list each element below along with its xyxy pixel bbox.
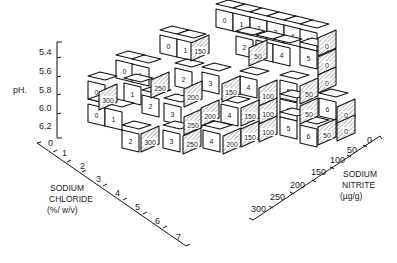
- nacl-value-label: 3: [170, 138, 174, 145]
- nacl-tick: 2: [80, 161, 85, 171]
- nacl-value-label: 0: [167, 43, 171, 50]
- nitrite-units: (µg/g): [340, 191, 363, 201]
- nitrite-title: NITRITE: [342, 180, 375, 190]
- nitrite-value-label: 0: [325, 43, 329, 50]
- sodium-nitrite-axis: 0 50 100 150 200 250 300 SODIUM NITRITE …: [249, 135, 382, 220]
- nacl-value-label: 5: [287, 125, 291, 132]
- ph-axis: pH. 5.4 5.6 5.8 6.0 6.2: [13, 42, 62, 138]
- nacl-units: (%/ w/v): [47, 205, 78, 215]
- nacl-value-label: 0: [223, 17, 227, 24]
- nacl-tick: 7: [176, 232, 181, 242]
- nacl-tick: 0: [48, 138, 53, 148]
- nacl-value-label: 3: [171, 111, 175, 118]
- nacl-value-label: 1: [240, 21, 244, 28]
- nitrite-value-label: 0: [344, 128, 348, 135]
- nacl-tick: 6: [155, 216, 160, 226]
- nacl-tick: 4: [115, 188, 120, 198]
- nacl-value-label: 0: [95, 112, 99, 119]
- nacl-value-label: 4: [228, 112, 232, 119]
- nacl-value-label: 1: [112, 116, 116, 123]
- ph-tick: 5.8: [39, 85, 52, 95]
- nacl-value-label: 1: [184, 47, 188, 54]
- blocks: 0123450123450123450123456012345615050000…: [88, 0, 355, 154]
- nitrite-value-label: 150: [244, 113, 256, 120]
- nitrite-value-label: 50: [254, 53, 262, 60]
- nitrite-tick: 0: [367, 135, 372, 145]
- nacl-value-label: 5: [307, 55, 311, 62]
- nitrite-value-label: 100: [262, 93, 274, 100]
- nitrite-value-label: 300: [102, 97, 114, 104]
- nacl-value-label: 2: [129, 138, 133, 145]
- nitrite-value-label: 250: [186, 141, 198, 148]
- nitrite-value-label: 0: [344, 112, 348, 119]
- nitrite-tick: 250: [270, 192, 285, 202]
- nitrite-tick: 150: [311, 167, 326, 177]
- cube-top-face: [280, 71, 309, 79]
- nacl-tick: 5: [135, 202, 140, 212]
- nacl-value-label: 4: [210, 138, 214, 145]
- cube-top-face: [240, 67, 269, 75]
- nitrite-value-label: 50: [305, 111, 313, 118]
- nitrite-tick: 100: [330, 155, 345, 165]
- nitrite-value-label: 250: [154, 85, 166, 92]
- nacl-value-label: 2: [243, 44, 247, 51]
- nacl-value-label: 0: [123, 68, 127, 75]
- nitrite-value-label: 50: [305, 91, 313, 98]
- nacl-value-label: 4: [280, 52, 284, 59]
- nitrite-tick: 50: [347, 145, 357, 155]
- ph-axis-label: pH.: [13, 85, 27, 95]
- nacl-value-label: 2: [149, 103, 153, 110]
- nitrite-value-label: 0: [325, 80, 329, 87]
- cube-top-face: [88, 72, 117, 80]
- nacl-tick: 3: [96, 174, 101, 184]
- nitrite-title: SODIUM: [343, 169, 377, 179]
- nitrite-value-label: 200: [204, 113, 216, 120]
- nitrite-value-label: 300: [144, 139, 156, 146]
- nitrite-value-label: 250: [187, 122, 199, 129]
- nacl-value-label: 6: [307, 133, 311, 140]
- nitrite-value-label: 0: [325, 62, 329, 69]
- cube-top-face: [175, 59, 204, 67]
- nitrite-value-label: 150: [194, 48, 206, 55]
- nitrite-value-label: 100: [262, 129, 274, 136]
- nacl-title: SODIUM: [50, 183, 84, 193]
- cube-top-face: [122, 121, 151, 129]
- nitrite-value-label: 200: [187, 94, 199, 101]
- nitrite-value-label: 100: [262, 111, 274, 118]
- block-chart: pH. 5.4 5.6 5.8 6.0 6.2 0 1 2 3 4 5 6 7 …: [0, 0, 397, 263]
- nitrite-value-label: 200: [226, 141, 238, 148]
- nacl-value-label: 0: [95, 89, 99, 96]
- ph-tick: 6.2: [39, 121, 52, 131]
- nitrite-value-label: 50: [323, 132, 331, 139]
- sodium-chloride-axis: 0 1 2 3 4 5 6 7 SODIUM CHLORIDE (%/ w/v): [37, 138, 190, 246]
- ph-tick: 6.0: [39, 103, 52, 113]
- nitrite-tick: 200: [290, 180, 305, 190]
- nacl-tick: 1: [62, 148, 67, 158]
- nitrite-value-label: 150: [225, 89, 237, 96]
- ph-tick: 5.4: [39, 47, 52, 57]
- nitrite-tick: 300: [251, 204, 266, 214]
- cube-top-face: [202, 63, 231, 71]
- nacl-value-label: 2: [182, 76, 186, 83]
- nitrite-value-label: 150: [244, 134, 256, 141]
- nacl-value-label: 1: [131, 91, 135, 98]
- nacl-value-label: 6: [326, 106, 330, 113]
- nacl-title: CHLORIDE: [49, 194, 93, 204]
- ph-tick: 5.6: [39, 66, 52, 76]
- nacl-value-label: 3: [209, 80, 213, 87]
- nacl-value-label: 4: [247, 84, 251, 91]
